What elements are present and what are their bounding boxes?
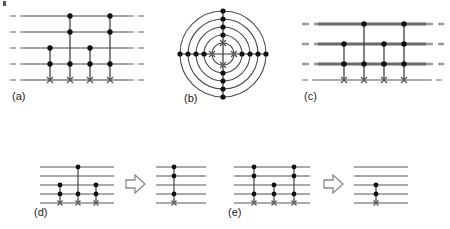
panel-d-rewrite-rule [38,162,208,214]
gate-vertical-lines [344,24,404,80]
rhs-wire-lines [354,167,408,203]
lhs-control-nodes [252,165,297,197]
panel-a: (a) [8,8,148,88]
corner-tick-mark [3,1,6,6]
panel-b-label: (b) [184,92,197,104]
panel-e-rewrite-rule [232,162,412,214]
wire-lines [24,16,128,80]
rewrite-arrow-icon [126,175,145,193]
wire-lines [318,24,426,80]
panel-e-label: (e) [228,206,241,218]
panel-e: (e) [232,162,412,214]
panel-a-circuit [8,8,148,88]
panel-c-label: (c) [304,90,317,102]
panel-c: (c) [300,16,446,88]
panel-a-label: (a) [12,90,25,102]
panel-b-circuit [168,6,278,106]
figure-canvas: (a) [0,0,450,229]
panel-c-circuit [300,16,446,88]
rewrite-arrow-icon [324,175,343,193]
rhs-wire-lines [156,167,206,203]
lhs-wire-lines [40,167,114,203]
panel-d: (d) [38,162,208,214]
panel-b: (b) [168,6,278,106]
wire-dashed-stubs [302,24,444,80]
control-nodes [47,13,112,66]
panel-d-label: (d) [34,206,47,218]
